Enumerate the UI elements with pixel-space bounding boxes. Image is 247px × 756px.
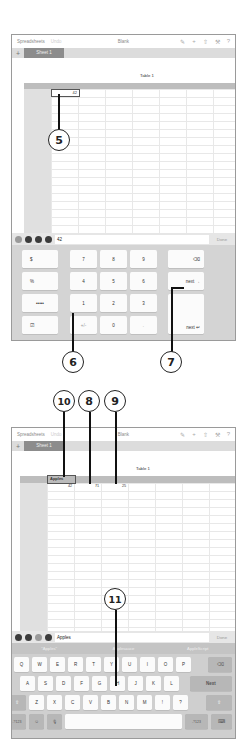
suggestion-1[interactable]: "Apples" [12, 646, 86, 651]
hide-keyboard-key[interactable]: ⌨ [211, 714, 232, 729]
suggestion-2[interactable]: Applesauce [86, 646, 160, 651]
add-sheet-button[interactable]: + [12, 443, 24, 450]
tab-sheet-1[interactable]: Sheet 1 [24, 48, 64, 58]
formula-icon[interactable] [45, 634, 52, 641]
recent-icon[interactable] [15, 634, 22, 641]
currency-key[interactable]: $ [22, 250, 58, 268]
key-r[interactable]: R [68, 657, 83, 672]
key-b[interactable]: B [101, 695, 116, 710]
brush-icon[interactable]: ✎ [180, 38, 185, 45]
key-f[interactable]: F [74, 676, 89, 691]
table-grid[interactable] [47, 483, 235, 633]
key-y[interactable]: Y [104, 657, 119, 672]
numbers-left-key[interactable]: .?123 [11, 714, 26, 729]
suggestion-3[interactable]: AppleScript [161, 646, 235, 651]
key-k[interactable]: K [146, 676, 161, 691]
shift-right-key[interactable]: ⇧ [206, 695, 232, 710]
recent-icon[interactable] [15, 236, 22, 243]
share-icon[interactable]: ⇧ [203, 38, 208, 45]
checkbox-key[interactable]: ☑ [22, 316, 58, 334]
text-keyboard-icon[interactable] [35, 236, 42, 243]
key-j[interactable]: J [128, 676, 143, 691]
key-o[interactable]: O [158, 657, 173, 672]
cell-value-input[interactable]: Apples [55, 633, 209, 642]
number-keypad-icon[interactable] [25, 634, 32, 641]
plus-icon[interactable]: + [192, 431, 196, 438]
cell-value-input[interactable]: 42 [55, 235, 209, 244]
key-c[interactable]: C [65, 695, 80, 710]
cell-value-2[interactable]: 71 [95, 484, 99, 488]
numbers-right-key[interactable]: .?123 [185, 714, 208, 729]
key-a[interactable]: A [20, 676, 35, 691]
plus-icon[interactable]: + [192, 38, 196, 45]
key-h[interactable]: H [110, 676, 125, 691]
key-1[interactable]: 1 [70, 294, 97, 312]
key-5[interactable]: 5 [100, 272, 127, 290]
key-question[interactable]: ? [173, 695, 188, 710]
cell-value-1[interactable]: 42 [68, 484, 72, 488]
selected-header-cell[interactable]: Apples [47, 475, 76, 484]
next-row-key[interactable]: next ↵ [168, 294, 204, 334]
key-3[interactable]: 3 [130, 294, 157, 312]
spreadsheets-back-button[interactable]: Spreadsheets [17, 432, 45, 437]
delete-key[interactable]: ⌫ [208, 657, 232, 672]
key-6[interactable]: 6 [130, 272, 157, 290]
key-g[interactable]: G [92, 676, 107, 691]
key-p[interactable]: P [176, 657, 191, 672]
shift-left-key[interactable]: ⇧ [11, 695, 26, 710]
key-l[interactable]: L [164, 676, 179, 691]
help-icon[interactable]: ? [227, 38, 230, 45]
brush-icon[interactable]: ✎ [180, 431, 185, 438]
rating-key[interactable]: ••••• [22, 294, 58, 312]
spreadsheets-back-button[interactable]: Spreadsheets [17, 39, 45, 44]
space-bar[interactable] [65, 714, 182, 729]
table-grid[interactable] [51, 89, 235, 239]
key-d[interactable]: D [56, 676, 71, 691]
dictation-key[interactable]: 🎙 [47, 714, 62, 729]
sheet-tab-bar: + Sheet 1 [12, 441, 235, 451]
key-t[interactable]: T [86, 657, 101, 672]
cell-value-3[interactable]: 25 [122, 484, 126, 488]
key-q[interactable]: Q [14, 657, 29, 672]
key-exclamation[interactable]: ! [155, 695, 170, 710]
numeric-keypad: $ % ••••• ☑ 7 8 9 4 5 6 1 2 3 +/- 0 . ⌫ … [12, 245, 235, 341]
key-z[interactable]: Z [29, 695, 44, 710]
key-7[interactable]: 7 [70, 250, 97, 268]
share-icon[interactable]: ⇧ [203, 431, 208, 438]
plus-minus-key[interactable]: +/- [70, 316, 97, 334]
selected-cell[interactable]: 42 [51, 89, 80, 97]
wrench-icon[interactable]: ⚒ [215, 38, 220, 45]
key-x[interactable]: X [47, 695, 62, 710]
key-n[interactable]: N [119, 695, 134, 710]
callout-11: 11 [104, 588, 126, 610]
done-button[interactable]: Done [212, 237, 232, 242]
key-i[interactable]: I [140, 657, 155, 672]
undo-button[interactable]: Undo [51, 39, 62, 44]
percent-key[interactable]: % [22, 272, 58, 290]
text-keyboard-icon[interactable] [35, 634, 42, 641]
add-sheet-button[interactable]: + [12, 50, 24, 57]
key-w[interactable]: W [32, 657, 47, 672]
next-key[interactable]: Next [190, 676, 232, 691]
undo-button[interactable]: Undo [51, 432, 62, 437]
key-s[interactable]: S [38, 676, 53, 691]
emoji-key[interactable]: ☺ [29, 714, 44, 729]
formula-bar: 42 Done [12, 233, 235, 245]
done-button[interactable]: Done [212, 635, 232, 640]
tab-sheet-1[interactable]: Sheet 1 [24, 441, 64, 451]
formula-icon[interactable] [45, 236, 52, 243]
decimal-key[interactable]: . [130, 316, 157, 334]
key-8[interactable]: 8 [100, 250, 127, 268]
key-v[interactable]: V [83, 695, 98, 710]
wrench-icon[interactable]: ⚒ [215, 431, 220, 438]
help-icon[interactable]: ? [227, 431, 230, 438]
number-keypad-icon[interactable] [25, 236, 32, 243]
key-m[interactable]: M [137, 695, 152, 710]
key-9[interactable]: 9 [130, 250, 157, 268]
key-u[interactable]: U [122, 657, 137, 672]
key-0[interactable]: 0 [100, 316, 127, 334]
delete-key[interactable]: ⌫ [168, 250, 204, 268]
key-4[interactable]: 4 [70, 272, 97, 290]
key-e[interactable]: E [50, 657, 65, 672]
key-2[interactable]: 2 [100, 294, 127, 312]
